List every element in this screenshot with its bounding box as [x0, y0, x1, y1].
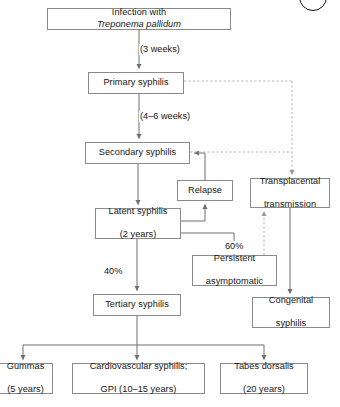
node-infection-label-prefix: Infection with [48, 7, 230, 19]
node-tabes-line1: Tabes dorsalis [221, 361, 307, 373]
node-persistent-line2: asymptomatic [193, 276, 276, 288]
node-tabes-line2: (20 years) [221, 384, 307, 396]
node-transplacental-line2: transmission [251, 199, 329, 211]
node-gummas-line2: (5 years) [0, 384, 52, 396]
node-cardiovascular-line1: Cardiovascular syphilis; [73, 361, 204, 373]
node-secondary-syphilis-label: Secondary syphilis [86, 147, 189, 159]
node-cardiovascular-line2: GPI (10–15 years) [73, 384, 204, 396]
node-relapse-label: Relapse [178, 185, 232, 197]
edge-relapse-to-secondary [195, 153, 206, 180]
edge-latent-to-relapse [181, 205, 205, 222]
edge-label-sixty-percent: 60% [224, 241, 244, 252]
node-persistent-asymptomatic: Persistentasymptomatic [192, 255, 277, 286]
node-transplacental-line1: Transplacental [251, 176, 329, 188]
node-transplacental-transmission: Transplacentaltransmission [250, 178, 330, 208]
node-latent-line2: (2 years) [96, 229, 180, 241]
node-secondary-syphilis: Secondary syphilis [85, 142, 190, 164]
edge-label-three-weeks: (3 weeks) [139, 44, 181, 55]
node-gummas-line1: Gummas [0, 361, 52, 373]
node-tabes-dorsalis: Tabes dorsalis(20 years) [220, 363, 308, 394]
node-tertiary-syphilis: Tertiary syphilis [93, 294, 181, 316]
node-congenital-line2: syphilis [253, 318, 329, 330]
node-cardiovascular-syphilis: Cardiovascular syphilis;GPI (10–15 years… [72, 363, 205, 394]
node-congenital-syphilis: Congenitalsyphilis [252, 297, 330, 328]
node-gummas: Gummas(5 years) [0, 363, 53, 394]
node-primary-syphilis-label: Primary syphilis [89, 77, 183, 89]
node-primary-syphilis: Primary syphilis [88, 72, 184, 94]
node-congenital-line1: Congenital [253, 295, 329, 307]
node-infection-label-italic: Treponema pallidum [48, 19, 230, 31]
node-persistent-line1: Persistent [193, 253, 276, 265]
node-tertiary-syphilis-label: Tertiary syphilis [94, 299, 180, 311]
node-latent-syphilis: Latent syphilis(2 years) [95, 208, 181, 239]
edge-label-four-six-weeks: (4–6 weeks) [139, 111, 191, 122]
node-relapse: Relapse [177, 180, 233, 201]
syphilis-flowchart-diagram: Infection with Treponema pallidum Primar… [0, 0, 340, 407]
node-infection: Infection with Treponema pallidum [47, 8, 231, 30]
edge-label-forty-percent: 40% [103, 266, 123, 277]
node-latent-line1: Latent syphilis [96, 206, 180, 218]
